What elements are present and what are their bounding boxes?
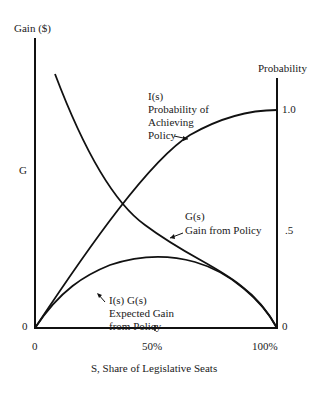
gain-annotation-line2: Gain from Policy: [185, 224, 261, 237]
expected-gain-annotation-line1: I(s) G(s): [109, 294, 147, 307]
right-tick-zero: 0: [282, 320, 288, 333]
right-tick-one: 1.0: [282, 103, 296, 116]
left-tick-zero: 0: [22, 320, 28, 333]
gain-arrowhead: [170, 234, 175, 239]
x-tick-hundred-label: 100%: [252, 340, 278, 353]
probability-annotation-line3: Achieving: [148, 116, 194, 129]
probability-curve: [35, 110, 277, 328]
x-tick-fifty-label: 50%: [142, 340, 162, 353]
probability-annotation-line1: I(s): [148, 90, 163, 103]
probability-annotation-line2: Probability of: [148, 103, 209, 116]
left-axis-title: Gain ($): [14, 22, 51, 35]
gain-annotation-line1: G(s): [185, 210, 205, 223]
right-axis-title: Probability: [258, 62, 307, 75]
left-tick-g: G: [19, 164, 27, 177]
expected-gain-annotation-line3: from Policy: [109, 320, 161, 333]
right-tick-half: .5: [285, 224, 293, 237]
x-tick-zero-label: 0: [32, 340, 38, 353]
probability-annotation-line4: Policy: [148, 129, 176, 142]
expected-gain-annotation-line2: Expected Gain: [109, 307, 174, 320]
x-axis-title: S, Share of Legislative Seats: [91, 362, 217, 375]
